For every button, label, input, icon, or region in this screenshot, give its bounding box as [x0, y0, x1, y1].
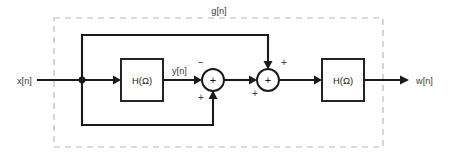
diagram-canvas: g[n] H(Ω) y[n] + − + + + + — [0, 0, 450, 157]
arrowhead-into-sum1-left — [194, 76, 202, 85]
adder-sum2-sign-plus-left: + — [252, 88, 258, 99]
signal-flow-diagram: g[n] H(Ω) y[n] + − + + + + — [0, 0, 450, 157]
label-y: y[n] — [172, 66, 187, 76]
arrowhead-output-w — [400, 76, 409, 85]
adder-sum2-glyph: + — [265, 74, 271, 86]
adder-sum1-sign-plus: + — [198, 92, 204, 103]
boundary-label-g: g[n] — [211, 6, 226, 16]
block-h1-label: H(Ω) — [132, 75, 152, 86]
label-w-output: w[n] — [415, 76, 433, 86]
block-h2-label: H(Ω) — [333, 75, 353, 86]
adder-sum1-sign-minus: − — [198, 57, 204, 68]
arrowhead-into-h2 — [314, 76, 322, 85]
label-x-input: x[n] — [17, 76, 32, 86]
adder-sum1-glyph: + — [210, 74, 216, 86]
adder-sum2-sign-plus-top: + — [281, 57, 287, 68]
arrowhead-into-sum2-left — [249, 76, 257, 85]
junction-dot-split — [79, 77, 86, 84]
arrowhead-into-h1 — [113, 76, 121, 85]
